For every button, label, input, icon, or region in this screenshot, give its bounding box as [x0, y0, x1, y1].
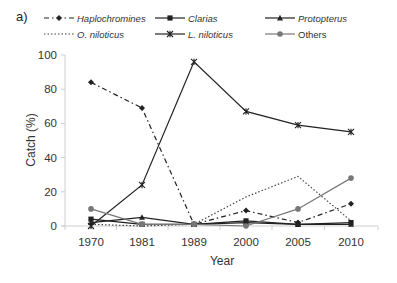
y-tick-label: 20	[44, 186, 57, 198]
circle-marker	[88, 206, 94, 212]
x-tick-label: 1989	[181, 236, 207, 248]
x-tick-label: 1970	[78, 236, 104, 248]
circle-marker	[295, 206, 301, 212]
diamond-marker	[139, 105, 145, 111]
square-marker	[167, 15, 172, 20]
legend-item-o-niloticus: O. niloticus	[44, 29, 124, 40]
circle-marker	[243, 223, 249, 229]
chart-series	[88, 59, 354, 230]
legend-label: O. niloticus	[77, 29, 124, 40]
y-tick-label: 40	[44, 152, 57, 164]
circle-marker	[139, 221, 145, 227]
triangle-marker	[139, 214, 145, 220]
diamond-marker	[88, 79, 94, 85]
circle-marker	[348, 175, 354, 181]
line-chart: HaplochrominesClariasProtopterusO. nilot…	[0, 0, 397, 283]
legend-label: Others	[298, 29, 327, 40]
star-marker	[139, 182, 145, 188]
x-tick-label: 2005	[285, 236, 311, 248]
legend-item-clarias: Clarias	[155, 13, 218, 24]
circle-marker	[191, 221, 197, 227]
diamond-marker	[348, 201, 354, 207]
x-tick-label: 2000	[233, 236, 259, 248]
y-tick-label: 60	[44, 117, 57, 129]
y-tick-label: 0	[51, 220, 57, 232]
series-line	[91, 82, 351, 224]
x-tick-label: 1981	[129, 236, 155, 248]
diamond-marker	[243, 208, 249, 214]
series-others	[88, 175, 354, 228]
legend-item-haplochromines: Haplochromines	[44, 13, 146, 24]
x-axis-title: Year	[210, 254, 234, 268]
chart-legend: HaplochrominesClariasProtopterusO. nilot…	[44, 13, 347, 40]
y-tick-label: 100	[38, 49, 57, 61]
y-axis-title: Catch (%)	[24, 113, 38, 166]
legend-label: Protopterus	[298, 13, 347, 24]
circle-marker	[277, 31, 283, 37]
chart-axes: 020406080100197019811989200020052010Year…	[24, 49, 378, 268]
y-tick-label: 80	[44, 83, 57, 95]
legend-label: L. niloticus	[188, 29, 233, 40]
legend-item-protopterus: Protopterus	[265, 13, 347, 24]
x-tick-label: 2010	[338, 236, 364, 248]
diamond-marker	[56, 15, 62, 21]
series-haplochromines	[88, 79, 354, 227]
series-l-niloticus	[88, 59, 354, 230]
star-marker	[191, 59, 197, 65]
legend-item-others: Others	[265, 29, 327, 40]
legend-item-l-niloticus: L. niloticus	[155, 29, 233, 40]
legend-label: Clarias	[188, 13, 218, 24]
legend-label: Haplochromines	[77, 13, 146, 24]
